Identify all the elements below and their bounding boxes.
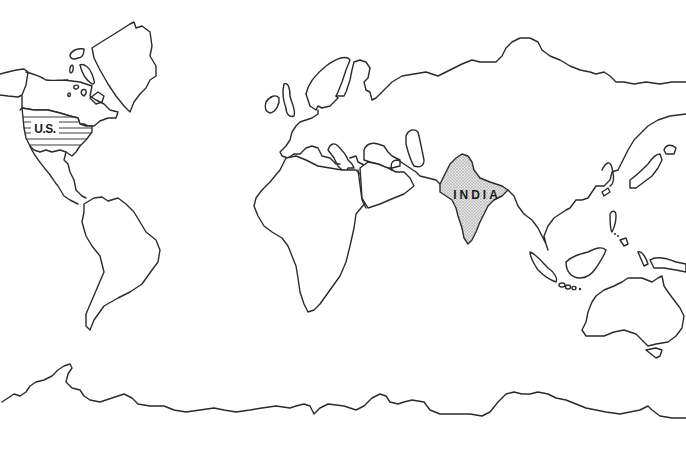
arabia-outline — [360, 162, 414, 208]
borneo-outline — [566, 248, 606, 278]
sulawesi-outline — [638, 252, 648, 266]
antarctica-outline — [2, 364, 686, 418]
us-label: U.S. — [34, 122, 56, 136]
japan-small-island — [602, 188, 610, 196]
caspian-outline — [406, 130, 424, 167]
india-region: INDIA — [440, 154, 508, 244]
philippines-outline — [610, 211, 628, 246]
central-america-outline — [30, 146, 86, 204]
island-dot — [617, 235, 619, 237]
south-america-outline — [82, 197, 160, 330]
australia-outline — [582, 276, 684, 346]
alaska-outline — [0, 69, 28, 97]
japan-outline — [630, 145, 676, 188]
greenland-outline — [92, 22, 156, 112]
new-guinea-outline — [650, 258, 686, 272]
africa-outline — [254, 156, 366, 312]
southeast-asia-outline — [508, 114, 686, 250]
java-islands — [559, 283, 581, 290]
sumatra-outline — [530, 252, 557, 282]
scandinavia-outline — [306, 38, 686, 100]
tasmania-outline — [646, 348, 662, 358]
world-map: U.S. INDIA — [0, 0, 686, 450]
island-dot — [614, 233, 616, 235]
ireland-outline — [265, 96, 279, 113]
us-region: U.S. — [0, 108, 120, 156]
britain-outline — [283, 84, 295, 117]
india-label: INDIA — [453, 188, 501, 202]
